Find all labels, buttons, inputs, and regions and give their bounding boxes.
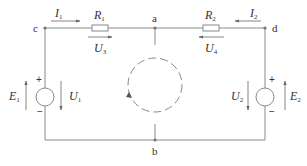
- r1-subscript: 1: [101, 15, 105, 23]
- source-circle-icon: [256, 88, 274, 106]
- svg-text:U4: U4: [205, 41, 218, 56]
- e2-plus-sign: +: [269, 74, 275, 85]
- node-d: d: [263, 22, 278, 34]
- e2-subscript: 2: [297, 96, 301, 104]
- e1-minus-sign: −: [37, 106, 43, 117]
- r2-subscript: 2: [212, 15, 216, 23]
- source-circle-icon: [36, 88, 54, 106]
- loop-direction: [126, 58, 182, 112]
- current-i2: I2: [235, 6, 261, 21]
- voltage-source-e1: + − E1: [8, 74, 54, 117]
- svg-text:R1: R1: [93, 8, 105, 23]
- u3-subscript: 3: [103, 48, 107, 56]
- e2-minus-sign: −: [269, 106, 275, 117]
- e1-subscript: 1: [16, 96, 20, 104]
- voltage-u3: U3: [88, 37, 112, 56]
- node-c-label: c: [33, 22, 38, 34]
- svg-text:R2: R2: [204, 8, 216, 23]
- current-i1: I1: [51, 6, 80, 21]
- svg-text:U3: U3: [94, 41, 107, 56]
- svg-text:E1: E1: [8, 89, 20, 104]
- node-b: b: [152, 138, 158, 157]
- u2-subscript: 2: [240, 96, 244, 104]
- voltage-u4: U4: [199, 37, 224, 56]
- svg-text:U2: U2: [231, 89, 244, 104]
- node-a-label: a: [152, 12, 157, 24]
- svg-text:E2: E2: [289, 89, 301, 104]
- voltage-u1: U1: [61, 81, 82, 110]
- svg-text:I2: I2: [249, 6, 258, 21]
- i2-subscript: 2: [254, 13, 258, 21]
- wires: [45, 28, 265, 140]
- voltage-u2: U2: [231, 81, 248, 110]
- resistor-r1: R1: [92, 8, 108, 31]
- svg-text:U1: U1: [69, 89, 82, 104]
- u1-subscript: 1: [78, 96, 82, 104]
- loop-arrow-icon: [126, 92, 132, 98]
- e1-plus-sign: +: [36, 74, 42, 85]
- node-b-label: b: [152, 145, 158, 157]
- dashed-loop-icon: [128, 58, 182, 112]
- node-a: a: [152, 12, 157, 30]
- voltage-source-e2: + − E2: [256, 74, 301, 117]
- svg-text:I1: I1: [54, 6, 63, 21]
- resistor-r2: R2: [203, 8, 219, 31]
- i1-subscript: 1: [59, 13, 63, 21]
- node-d-label: d: [272, 22, 278, 34]
- circuit-diagram: c a d b R1 R2 I1 I2 U3 U4: [0, 0, 307, 166]
- u4-subscript: 4: [214, 48, 218, 56]
